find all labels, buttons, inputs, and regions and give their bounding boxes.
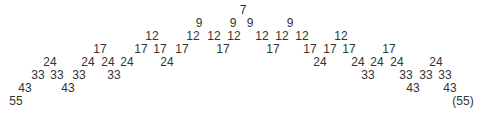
number-node: 33 (72, 69, 85, 81)
number-node: 9 (247, 17, 254, 29)
number-node: 43 (61, 82, 74, 94)
number-node: 17 (342, 43, 355, 55)
number-node: 24 (429, 56, 442, 68)
number-node: 12 (207, 30, 220, 42)
number-node: 24 (313, 56, 326, 68)
number-node: 43 (406, 82, 419, 94)
number-node: 17 (303, 43, 316, 55)
number-node: 43 (443, 82, 456, 94)
number-node: 17 (153, 43, 166, 55)
number-node: 33 (419, 69, 432, 81)
number-node: 9 (196, 17, 203, 29)
number-node: 33 (107, 69, 120, 81)
number-node: 17 (382, 43, 395, 55)
number-node: 12 (295, 30, 308, 42)
number-node: 24 (370, 56, 383, 68)
number-node: 24 (101, 56, 114, 68)
number-node: 12 (334, 30, 347, 42)
number-node: 12 (227, 30, 240, 42)
number-node: 17 (266, 43, 279, 55)
number-node: 9 (230, 17, 237, 29)
number-node: 12 (186, 30, 199, 42)
number-node: 24 (81, 56, 94, 68)
number-node: 12 (145, 30, 158, 42)
number-node: 24 (390, 56, 403, 68)
number-node: 33 (438, 69, 451, 81)
number-node: 55 (9, 95, 22, 107)
number-node: 33 (50, 69, 63, 81)
number-node: 24 (120, 56, 133, 68)
number-node: 17 (323, 43, 336, 55)
number-node: 9 (287, 17, 294, 29)
number-node: 43 (18, 82, 31, 94)
number-node: 24 (351, 56, 364, 68)
number-node: 17 (134, 43, 147, 55)
number-node: 17 (93, 43, 106, 55)
number-node: 17 (216, 43, 229, 55)
number-node: 24 (160, 56, 173, 68)
number-node: 33 (31, 69, 44, 81)
number-node: 24 (43, 56, 56, 68)
number-node: 12 (255, 30, 268, 42)
number-node: 7 (240, 4, 247, 16)
number-node: 17 (175, 43, 188, 55)
number-node: (55) (452, 95, 473, 107)
number-node: 33 (361, 69, 374, 81)
number-node: 12 (275, 30, 288, 42)
number-node: 33 (399, 69, 412, 81)
